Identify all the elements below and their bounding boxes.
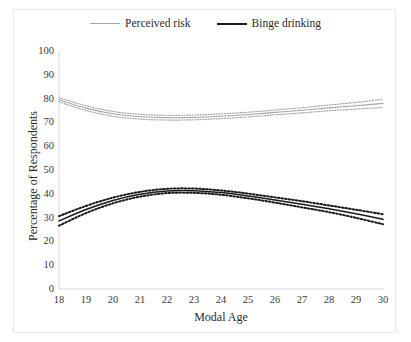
chart-figure: Perceived risk Binge drinking 0102030405… bbox=[0, 0, 411, 342]
x-tick-label: 24 bbox=[206, 295, 236, 306]
x-tick-label: 25 bbox=[233, 295, 263, 306]
x-tick-label: 22 bbox=[152, 295, 182, 306]
legend-item-binge-drinking: Binge drinking bbox=[217, 18, 321, 30]
y-axis-title: Percentage of Respondents bbox=[27, 76, 39, 276]
x-tick-label: 28 bbox=[314, 295, 344, 306]
series-binge-drinking bbox=[59, 188, 383, 225]
axis-lines bbox=[59, 51, 383, 289]
x-tick-label: 19 bbox=[71, 295, 101, 306]
x-tick-label: 20 bbox=[98, 295, 128, 306]
x-axis-tick-labels: 18192021222324252627282930 bbox=[59, 295, 383, 309]
y-tick-label: 0 bbox=[24, 284, 54, 295]
plot-svg bbox=[59, 51, 383, 289]
x-tick-label: 21 bbox=[125, 295, 155, 306]
plot-area bbox=[59, 51, 383, 289]
x-tick-label: 30 bbox=[368, 295, 398, 306]
x-tick-label: 27 bbox=[287, 295, 317, 306]
legend-label-perceived-risk: Perceived risk bbox=[125, 18, 190, 30]
series-perceived-risk bbox=[59, 98, 383, 120]
legend-item-perceived-risk: Perceived risk bbox=[90, 18, 190, 30]
series-layer bbox=[59, 98, 383, 226]
x-tick-label: 29 bbox=[341, 295, 371, 306]
legend-line-swatch-binge-drinking bbox=[217, 23, 247, 25]
x-tick-label: 18 bbox=[44, 295, 74, 306]
x-tick-label: 23 bbox=[179, 295, 209, 306]
y-tick-label: 100 bbox=[24, 46, 54, 57]
chart-legend: Perceived risk Binge drinking bbox=[0, 18, 411, 30]
x-axis-title: Modal Age bbox=[59, 311, 383, 323]
x-tick-label: 26 bbox=[260, 295, 290, 306]
legend-label-binge-drinking: Binge drinking bbox=[252, 18, 321, 30]
legend-line-swatch-perceived-risk bbox=[90, 23, 120, 24]
series-line bbox=[59, 100, 383, 118]
